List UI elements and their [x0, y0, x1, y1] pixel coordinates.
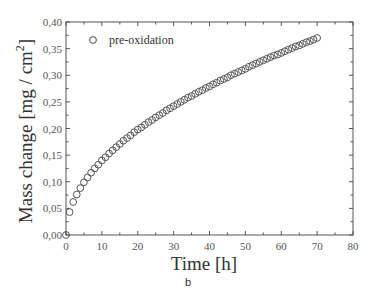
x-tick-label: 30 — [168, 240, 180, 252]
figure-caption: b — [0, 276, 376, 288]
data-point — [81, 179, 88, 186]
x-tick-label: 60 — [276, 240, 288, 252]
data-point — [88, 169, 95, 176]
x-tick-label: 50 — [240, 240, 252, 252]
x-tick-label: 70 — [312, 240, 324, 252]
plot-frame — [66, 22, 353, 235]
y-axis-title: Mass change [mg / cm2] — [13, 39, 36, 223]
x-tick-label: 0 — [63, 240, 69, 252]
data-point — [70, 199, 77, 206]
data-point — [84, 174, 91, 181]
x-tick-labels: 01020304050607080 — [63, 240, 359, 252]
x-axis-title: Time [h] — [171, 253, 237, 274]
legend-marker-icon — [90, 37, 97, 44]
legend-label: pre-oxidation — [109, 33, 174, 47]
y-tick-label: 0,40 — [43, 16, 63, 28]
y-tick-label: 0,10 — [43, 176, 63, 188]
x-tick-label: 10 — [96, 240, 108, 252]
y-tick-label: 0,05 — [43, 202, 63, 214]
y-tick-label: 0,25 — [43, 96, 63, 108]
y-tick-label: 0,20 — [43, 123, 63, 135]
y-tick-label: 0,00 — [43, 229, 63, 241]
x-tick-label: 40 — [204, 240, 216, 252]
data-series-pre-oxidation — [63, 35, 321, 239]
y-axis-title-end: ] — [15, 39, 36, 45]
y-axis-title-main: Mass change [mg / cm — [15, 51, 36, 223]
mass-change-chart: 01020304050607080 0,000,050,100,150,200,… — [0, 0, 376, 300]
y-tick-label: 0,35 — [43, 43, 63, 55]
x-tick-label: 20 — [132, 240, 144, 252]
y-tick-labels: 0,000,050,100,150,200,250,300,350,40 — [43, 16, 63, 241]
data-point — [66, 209, 73, 216]
y-tick-label: 0,15 — [43, 149, 63, 161]
x-tick-label: 80 — [348, 240, 360, 252]
legend: pre-oxidation — [90, 33, 174, 47]
y-tick-label: 0,30 — [43, 69, 63, 81]
data-point — [73, 191, 80, 198]
axis-ticks — [66, 22, 353, 235]
